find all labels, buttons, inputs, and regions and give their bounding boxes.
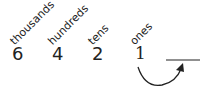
curved-arrow-icon [138, 67, 181, 85]
arrowhead-icon [176, 63, 184, 72]
blank-and-arrow [0, 0, 212, 91]
